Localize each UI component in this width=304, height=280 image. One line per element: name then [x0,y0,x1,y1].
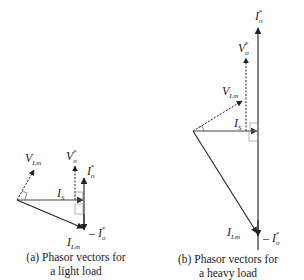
panel-b-heavy-load: Io* Vo* VLm IS ILm – Io* [193,8,280,250]
right-angle-box-a2 [75,204,83,214]
caption-a-line2: a light load [0,264,152,278]
label-neg-i-o-a: – Io* [88,225,106,242]
label-v-lm-b: VLm [222,84,238,100]
i-lm-vector-a [17,200,83,228]
caption-panel-b: (b) Phasor vectors for a heavy load [152,252,304,280]
label-i-s-b: IS [233,116,242,132]
panel-a-light-load: VLm Vo* Io* IS ILm – Io* [17,148,106,251]
i-lm-vector-b [193,131,257,233]
v-lm-vector-a [17,170,34,200]
label-i-lm-b: ILm [226,225,240,241]
right-angle-marker-a [22,191,27,200]
phasor-diagram-canvas: VLm Vo* Io* IS ILm – Io* Io* Vo* VLm IS … [0,0,304,280]
caption-a-line1: (a) Phasor vectors for [0,250,152,264]
caption-b-line1: (b) Phasor vectors for [152,252,304,266]
label-i-lm-a: ILm [66,235,80,251]
right-angle-box-b [250,123,258,131]
label-v-lm-a: VLm [25,151,41,167]
caption-panel-a: (a) Phasor vectors for a light load [0,250,152,278]
label-i-s-a: IS [56,186,65,202]
label-i-o-b: Io* [254,8,263,25]
right-angle-box-a [75,192,83,200]
caption-b-line2: a heavy load [152,266,304,280]
label-neg-i-o-b: – Io* [262,230,280,247]
label-i-o-a: Io* [86,163,95,180]
right-angle-marker-b [198,126,204,131]
label-v-o-a: Vo* [66,148,77,165]
label-v-o-b: Vo* [238,40,249,57]
right-angle-box-b2 [249,131,258,141]
